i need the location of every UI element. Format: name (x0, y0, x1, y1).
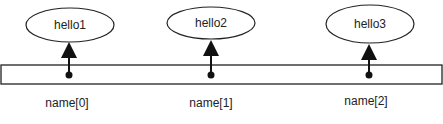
element-2: hello3 name[2] (326, 5, 414, 108)
reference-dot (208, 72, 215, 79)
element-1: hello2 name[1] (167, 7, 255, 110)
array-reference-diagram: hello1 name[0] hello2 name[1] hello3 nam… (0, 0, 443, 124)
index-label: name[2] (344, 94, 387, 108)
element-0: hello1 name[0] (26, 8, 114, 110)
string-value: hello3 (354, 17, 386, 31)
string-value: hello1 (54, 18, 86, 32)
reference-dot (366, 72, 373, 79)
string-value: hello2 (195, 16, 227, 30)
reference-dot (66, 72, 73, 79)
index-label: name[1] (189, 96, 232, 110)
index-label: name[0] (45, 96, 88, 110)
